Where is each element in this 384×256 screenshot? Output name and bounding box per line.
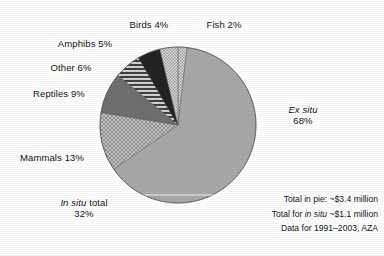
chart-notes: Total in pie: ~$3.4 million Total for in… [272,192,378,236]
pie-slices [100,47,256,203]
pie-label-ex-situ-name: Ex situ [288,104,317,115]
note-total-in-situ-suffix: ~$1.1 million [327,209,378,219]
pie-label-fish: Fish 2% [190,19,258,30]
note-data-source: Data for 1991–2003, AZA [272,221,378,236]
pie-label-in-situ-pct: 32% [74,208,93,219]
pie-label-birds: Birds 4% [110,19,188,30]
note-total-in-situ-term: in situ [305,209,327,219]
note-data-source-text: Data for 1991–2003, AZA [281,223,378,233]
note-total-in-pie: Total in pie: ~$3.4 million [272,192,378,207]
pie-label-amphibs: Amphibs 5% [42,38,128,49]
pie-label-mammals: Mammals 13% [4,152,100,163]
note-total-in-situ-prefix: Total for [272,209,305,219]
note-total-in-situ: Total for in situ ~$1.1 million [272,207,378,222]
pie-label-in-situ-name: In situ [60,197,86,208]
pie-label-reptiles: Reptiles 9% [14,88,104,99]
pie-label-ex-situ: Ex situ 68% [266,104,340,126]
pie-label-ex-situ-pct: 68% [293,115,312,126]
note-total-in-pie-text: Total in pie: ~$3.4 million [284,194,378,204]
pie-chart-figure: Birds 4% Fish 2% Amphibs 5% Other 6% Rep… [0,0,384,256]
pie-label-in-situ: In situ total 32% [30,197,138,219]
pie-label-other: Other 6% [32,62,110,73]
pie-label-in-situ-suffix: total [86,197,107,208]
